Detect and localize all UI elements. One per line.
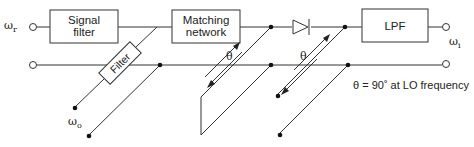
junction-dot [269,25,274,30]
stub2-ground-dot [278,133,283,138]
if-output-label: ωi [449,36,461,52]
junction-dot [269,63,274,68]
stub2-end-dot [276,94,281,99]
rf-input-label: ωr [4,20,17,36]
lo-terminal-dot [73,106,78,111]
theta-note: θ = 90˚ at LO frequency [353,79,469,91]
lo-ground-line [89,65,160,135]
lo-ground-terminal-dot [87,134,92,139]
if-terminal-icon [443,24,450,31]
junction-dot [346,63,351,68]
arrowhead-icon [323,34,330,42]
ground-terminal-right-icon [443,61,450,68]
stub1-lower-line [201,65,271,135]
junction-dot [343,25,348,30]
lo-line-lower [75,79,104,107]
rf-terminal-icon [30,24,37,31]
stub2-theta-label: θ [300,51,307,63]
stub2-upper-line [278,27,345,94]
lo-line-upper [136,27,157,47]
signal-filter-label: Signal filter [50,14,118,38]
ground-terminal-left-icon [30,62,37,69]
lo-input-label: ωo [68,116,82,132]
lpf-label: LPF [362,20,428,32]
matching-network-label: Matching network [172,14,240,38]
stub2-lower-line [280,65,348,133]
diode-icon [293,20,308,34]
junction-dot [158,63,163,68]
stub1-theta-label: θ [226,51,233,63]
